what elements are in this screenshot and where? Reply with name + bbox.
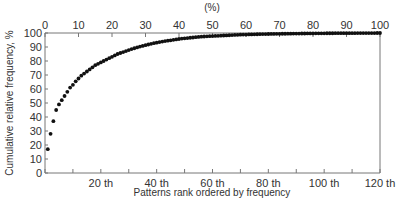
top-x-tick-label: 0 — [42, 19, 48, 31]
x-tick-label: 120 th — [365, 177, 396, 189]
x-axis-title: Patterns rank ordered by frequency — [134, 187, 291, 198]
top-x-tick-label: 60 — [240, 19, 252, 31]
data-point — [77, 77, 81, 81]
y-tick-label: 10 — [30, 153, 42, 165]
cumulative-frequency-chart: 010203040506070809010020 th40 th60 th80 … — [0, 0, 412, 206]
top-x-tick-label: 100 — [371, 19, 389, 31]
top-x-tick-label: 70 — [273, 19, 285, 31]
data-point — [63, 94, 67, 98]
y-tick-label: 60 — [30, 83, 42, 95]
data-point — [51, 119, 55, 123]
y-tick-label: 30 — [30, 125, 42, 137]
y-tick-label: 50 — [30, 97, 42, 109]
y-tick-label: 0 — [36, 167, 42, 179]
data-point — [60, 98, 64, 102]
top-x-tick-label: 20 — [106, 19, 118, 31]
y-tick-label: 80 — [30, 55, 42, 67]
y-tick-label: 40 — [30, 111, 42, 123]
data-point — [378, 31, 382, 35]
x-tick-label: 20 th — [89, 177, 113, 189]
data-point — [57, 103, 61, 107]
top-x-tick-label: 40 — [173, 19, 185, 31]
y-tick-label: 90 — [30, 41, 42, 53]
data-point — [65, 90, 69, 94]
top-axis-title: (%) — [204, 2, 220, 13]
data-points — [46, 31, 382, 151]
y-axis-title: Cumulative relative frequency, % — [4, 30, 15, 176]
data-point — [68, 86, 72, 90]
top-x-tick-label: 80 — [307, 19, 319, 31]
data-point — [71, 83, 75, 87]
y-tick-label: 100 — [24, 27, 42, 39]
data-point — [49, 132, 53, 136]
data-point — [46, 147, 50, 151]
axes: 010203040506070809010020 th40 th60 th80 … — [24, 19, 396, 189]
top-x-tick-label: 90 — [340, 19, 352, 31]
top-x-tick-label: 50 — [206, 19, 218, 31]
x-tick-label: 100 th — [309, 177, 340, 189]
top-x-tick-label: 30 — [139, 19, 151, 31]
y-tick-label: 70 — [30, 69, 42, 81]
top-x-tick-label: 10 — [72, 19, 84, 31]
y-tick-label: 20 — [30, 139, 42, 151]
data-point — [74, 79, 78, 83]
data-point — [54, 108, 58, 112]
